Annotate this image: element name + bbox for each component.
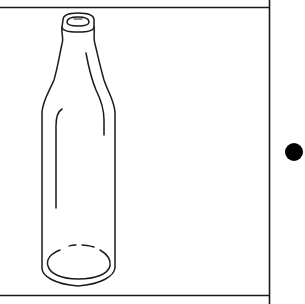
figure-canvas: Outline drawing of an empty glass bottle…	[0, 0, 305, 304]
bottle-icon	[42, 13, 115, 286]
figure-svg	[0, 0, 305, 304]
dot-marker-icon	[285, 143, 303, 161]
frame	[0, 0, 270, 304]
